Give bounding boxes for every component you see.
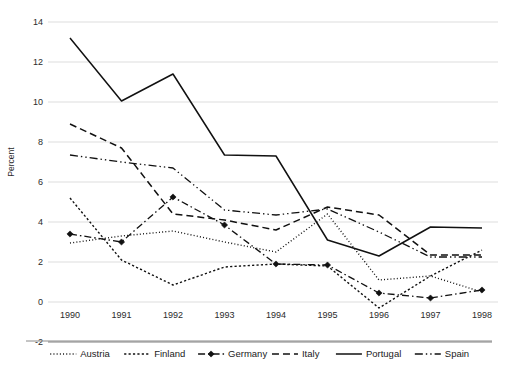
data-point-marker-germany xyxy=(221,222,227,228)
y-tick-label: 6 xyxy=(38,177,43,187)
x-tick-label: 1996 xyxy=(369,310,389,320)
x-tick-label: 1991 xyxy=(111,310,131,320)
legend-label-finland: Finland xyxy=(154,348,185,359)
y-tick-label: 2 xyxy=(38,257,43,267)
x-tick-label: 1997 xyxy=(420,310,440,320)
data-point-marker-germany xyxy=(427,295,433,301)
series-markers-group xyxy=(67,194,485,301)
data-point-marker-germany xyxy=(324,262,330,268)
series-line-austria xyxy=(70,214,482,292)
x-tick-label: 1990 xyxy=(60,310,80,320)
data-point-marker-germany xyxy=(479,287,485,293)
series-line-portugal xyxy=(70,38,482,256)
y-axis-title: Percent xyxy=(6,147,16,177)
x-tick-label: 1998 xyxy=(472,310,492,320)
x-axis-tick-labels: 199019911992199319941995199619971998 xyxy=(60,310,492,320)
gridlines-group xyxy=(48,22,498,342)
series-line-spain xyxy=(70,155,482,257)
y-tick-label: 10 xyxy=(33,97,43,107)
x-tick-label: 1994 xyxy=(266,310,286,320)
legend-label-italy: Italy xyxy=(302,348,320,359)
legend-label-portugal: Portugal xyxy=(366,348,401,359)
y-tick-label: 0 xyxy=(38,297,43,307)
y-tick-label: 4 xyxy=(38,217,43,227)
series-line-italy xyxy=(70,124,482,255)
y-axis-tick-labels: -202468101214 xyxy=(33,17,43,347)
x-tick-label: 1993 xyxy=(214,310,234,320)
legend-label-germany: Germany xyxy=(228,348,267,359)
legend-label-spain: Spain xyxy=(445,348,469,359)
chart-container: -202468101214 19901991199219931994199519… xyxy=(0,0,508,375)
data-point-marker-germany xyxy=(67,231,73,237)
legend-label-austria: Austria xyxy=(80,348,110,359)
line-chart: -202468101214 19901991199219931994199519… xyxy=(0,0,508,375)
y-tick-label: 12 xyxy=(33,57,43,67)
legend: AustriaFinlandGermanyItalyPortugalSpain xyxy=(50,348,469,359)
y-tick-label: -2 xyxy=(35,337,43,347)
y-tick-label: 14 xyxy=(33,17,43,27)
data-point-marker-germany xyxy=(118,239,124,245)
x-tick-label: 1995 xyxy=(317,310,337,320)
data-point-marker-germany xyxy=(376,290,382,296)
y-tick-label: 8 xyxy=(38,137,43,147)
x-tick-label: 1992 xyxy=(163,310,183,320)
legend-marker-germany xyxy=(208,351,214,357)
